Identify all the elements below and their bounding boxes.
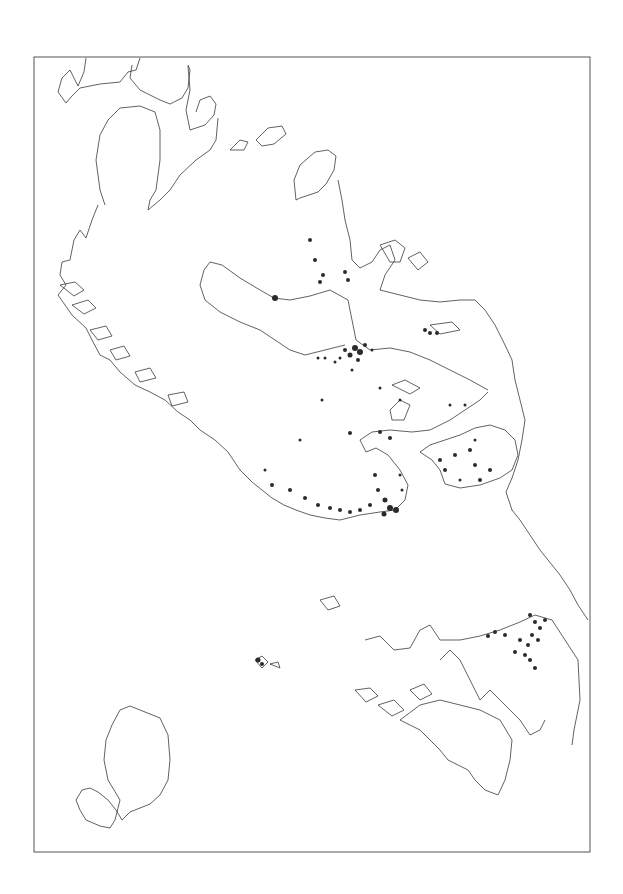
small-northern-islands xyxy=(230,126,286,150)
central-landmass-west xyxy=(200,270,345,355)
north-peninsula-coast xyxy=(58,58,140,103)
coastlines xyxy=(58,58,588,828)
long-eastern-inlet xyxy=(338,180,525,440)
inner-bay xyxy=(420,425,518,488)
fjord-islands-1 xyxy=(60,282,112,340)
southeast-peninsula-north xyxy=(365,615,580,745)
north-island-large xyxy=(294,150,336,200)
markers xyxy=(256,238,548,670)
fjord-islands-2 xyxy=(110,346,188,406)
eastern-coast xyxy=(506,440,588,620)
archipelago xyxy=(320,596,432,716)
central-landmass-north xyxy=(204,262,488,390)
southeast-interior xyxy=(440,650,545,735)
western-fjord-coast xyxy=(58,205,340,520)
west-bay-coast xyxy=(96,106,218,210)
southeast-peninsula-south xyxy=(400,700,512,795)
narrow-inlet xyxy=(186,66,216,130)
south-central-coast xyxy=(340,392,488,520)
map-frame xyxy=(34,57,590,852)
distribution-map xyxy=(0,0,623,894)
east-bay-islands xyxy=(380,240,428,270)
north-peninsula-inner xyxy=(130,65,190,104)
southwest-island xyxy=(76,706,170,828)
